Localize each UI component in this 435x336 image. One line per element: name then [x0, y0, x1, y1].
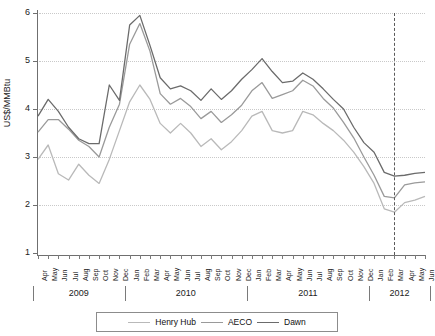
year-separator	[369, 286, 370, 301]
x-tick-label: Apr	[285, 270, 292, 281]
x-tick-label: Dec	[367, 269, 374, 281]
x-tick-label: Nov	[357, 269, 364, 281]
x-tick-mark	[405, 255, 406, 259]
x-tick-label: Jun	[184, 270, 191, 281]
x-tick-label: Mar	[275, 269, 282, 281]
vertical-dashed-line	[394, 13, 395, 255]
legend-label-henry-hub: Henry Hub	[155, 317, 196, 327]
x-tick-label: Aug	[326, 269, 333, 281]
x-tick-mark	[333, 255, 334, 259]
year-separator	[125, 286, 126, 301]
year-separator	[33, 286, 34, 301]
x-tick-label: Oct	[347, 270, 354, 281]
x-tick-label: Jul	[194, 272, 201, 281]
x-tick-mark	[48, 255, 49, 259]
year-label-2009: 2009	[33, 288, 125, 298]
x-tick-mark	[201, 255, 202, 259]
series-line-dawn	[38, 15, 425, 176]
x-tick-label: Sep	[214, 269, 221, 281]
x-tick-label: Aug	[204, 269, 211, 281]
x-tick-label: Jan	[377, 270, 384, 281]
x-tick-label: Apr	[41, 270, 48, 281]
x-tick-label: Oct	[224, 270, 231, 281]
x-tick-mark	[323, 255, 324, 259]
x-tick-mark	[425, 255, 426, 259]
series-line-henry-hub	[38, 85, 425, 212]
x-tick-mark	[191, 255, 192, 259]
x-tick-label: Oct	[102, 270, 109, 281]
x-tick-mark	[160, 255, 161, 259]
x-tick-mark	[384, 255, 385, 259]
x-tick-mark	[272, 255, 273, 259]
x-tick-mark	[69, 255, 70, 259]
x-tick-label: Jun	[306, 270, 313, 281]
x-tick-mark	[364, 255, 365, 259]
x-tick-label: Feb	[265, 269, 272, 281]
x-axis-month-ticks: AprMayJunJulAugSepOctNovDecJanFebMarAprM…	[0, 255, 428, 285]
x-tick-label: May	[51, 268, 58, 281]
x-axis-year-band: 2009201020112012	[0, 286, 428, 306]
x-tick-label: Apr	[408, 270, 415, 281]
x-tick-mark	[282, 255, 283, 259]
x-tick-mark	[150, 255, 151, 259]
x-tick-mark	[374, 255, 375, 259]
plot-area	[38, 13, 425, 253]
x-tick-mark	[140, 255, 141, 259]
x-tick-mark	[293, 255, 294, 259]
year-label-2010: 2010	[125, 288, 247, 298]
x-tick-label: Jun	[428, 270, 435, 281]
x-tick-mark	[344, 255, 345, 259]
x-tick-mark	[89, 255, 90, 259]
year-label-2011: 2011	[247, 288, 369, 298]
year-separator	[430, 286, 431, 301]
x-tick-mark	[79, 255, 80, 259]
x-tick-mark	[242, 255, 243, 259]
x-tick-label: Apr	[163, 270, 170, 281]
x-tick-mark	[119, 255, 120, 259]
x-tick-label: May	[418, 268, 425, 281]
x-tick-mark	[211, 255, 212, 259]
x-tick-label: May	[296, 268, 303, 281]
x-tick-mark	[170, 255, 171, 259]
x-tick-label: Sep	[92, 269, 99, 281]
year-separator	[247, 286, 248, 301]
x-tick-label: Nov	[112, 269, 119, 281]
x-tick-mark	[415, 255, 416, 259]
x-tick-label: Dec	[245, 269, 252, 281]
x-tick-label: Dec	[122, 269, 129, 281]
x-tick-label: Jun	[61, 270, 68, 281]
x-tick-mark	[262, 255, 263, 259]
x-tick-label: Aug	[82, 269, 89, 281]
x-tick-label: Feb	[387, 269, 394, 281]
x-tick-label: Jul	[316, 272, 323, 281]
x-tick-label: Jul	[72, 272, 79, 281]
x-tick-label: Jan	[133, 270, 140, 281]
x-tick-label: Mar	[153, 269, 160, 281]
x-tick-label: Sep	[336, 269, 343, 281]
x-tick-mark	[181, 255, 182, 259]
x-tick-label: Mar	[397, 269, 404, 281]
legend-label-aeco: AECO	[228, 317, 252, 327]
x-tick-mark	[221, 255, 222, 259]
x-tick-mark	[99, 255, 100, 259]
x-tick-label: Nov	[235, 269, 242, 281]
legend-swatch-henry-hub	[128, 322, 150, 323]
x-tick-mark	[394, 255, 395, 259]
legend-swatch-dawn	[257, 322, 279, 323]
x-tick-mark	[109, 255, 110, 259]
x-tick-mark	[354, 255, 355, 259]
chart-legend: Henry HubAECODawn	[96, 312, 338, 332]
x-tick-label: Jan	[255, 270, 262, 281]
x-tick-mark	[313, 255, 314, 259]
x-tick-label: Feb	[143, 269, 150, 281]
x-tick-mark	[38, 255, 39, 259]
legend-label-dawn: Dawn	[284, 317, 306, 327]
x-tick-mark	[130, 255, 131, 259]
x-tick-label: May	[173, 268, 180, 281]
year-label-2012: 2012	[369, 288, 430, 298]
legend-swatch-aeco	[201, 322, 223, 323]
x-tick-mark	[303, 255, 304, 259]
x-tick-mark	[232, 255, 233, 259]
x-tick-mark	[58, 255, 59, 259]
